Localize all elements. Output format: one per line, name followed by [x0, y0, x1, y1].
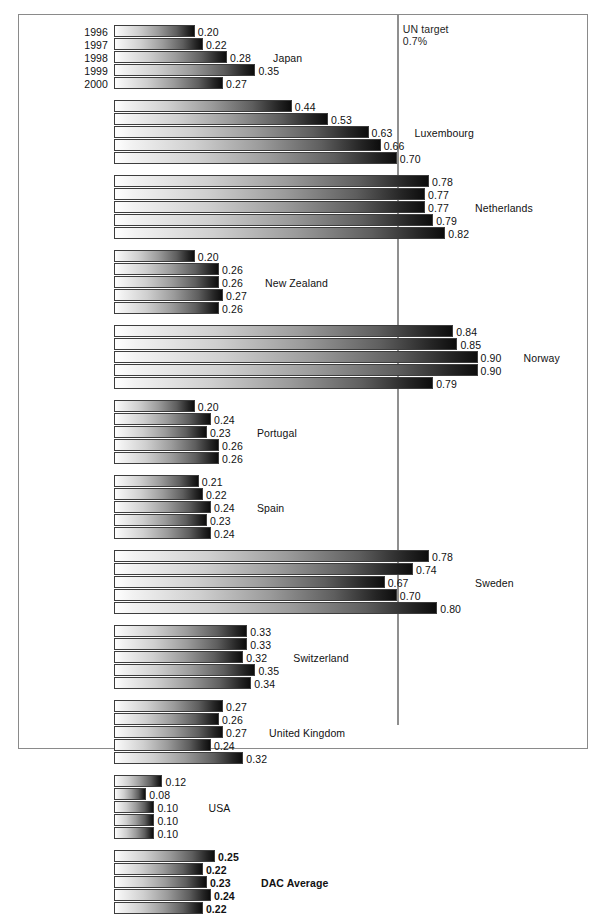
- bar-value-label: 0.79: [436, 215, 457, 227]
- bar-value-label: 0.66: [384, 140, 405, 152]
- bar: [114, 488, 203, 500]
- bar: [114, 38, 203, 50]
- bar-value-label: 0.78: [432, 551, 453, 563]
- bar-value-label: 0.28: [230, 52, 251, 64]
- bar-value-label: 0.24: [214, 740, 235, 752]
- bar-value-label: 0.27: [226, 78, 247, 90]
- bar-value-label: 0.70: [400, 153, 421, 165]
- bar: [114, 501, 211, 513]
- series-label-usa: USA: [208, 802, 230, 814]
- bar-value-label: 0.82: [448, 228, 469, 240]
- bar-value-label: 0.23: [210, 877, 231, 889]
- bar-value-label: 0.22: [206, 489, 227, 501]
- bar: [114, 100, 292, 112]
- bar: [114, 113, 328, 125]
- bar-value-label: 0.32: [246, 753, 267, 765]
- bar-value-label: 0.24: [214, 502, 235, 514]
- bar-value-label: 0.23: [210, 427, 231, 439]
- bar: [114, 651, 243, 663]
- bar-value-label: 0.26: [222, 440, 243, 452]
- bar: [114, 638, 247, 650]
- bar-value-label: 0.74: [416, 564, 437, 576]
- bar: [114, 550, 429, 562]
- bar-value-label: 0.26: [222, 264, 243, 276]
- bar: [114, 302, 219, 314]
- bar: [114, 814, 154, 826]
- bar-value-label: 0.27: [226, 727, 247, 739]
- bar: [114, 625, 247, 637]
- bar: [114, 713, 219, 725]
- bar-value-label: 0.79: [436, 378, 457, 390]
- bar-value-label: 0.26: [222, 303, 243, 315]
- bar-value-label: 0.26: [222, 453, 243, 465]
- bar: [114, 576, 385, 588]
- series-label-dac-average: DAC Average: [261, 877, 328, 889]
- bar-value-label: 0.20: [198, 251, 219, 263]
- bar: [114, 452, 219, 464]
- series-label-norway: Norway: [524, 352, 560, 364]
- bar: [114, 351, 478, 363]
- bar-value-label: 0.44: [295, 101, 316, 113]
- series-label-luxembourg: Luxembourg: [415, 127, 474, 139]
- bar: [114, 726, 223, 738]
- bar: [114, 902, 203, 914]
- bar-value-label: 0.78: [432, 176, 453, 188]
- bar: [114, 201, 425, 213]
- year-label-1996: 1996: [62, 26, 108, 38]
- bar-value-label: 0.63: [372, 127, 393, 139]
- year-label-2000: 2000: [62, 78, 108, 90]
- series-label-new-zealand: New Zealand: [265, 277, 328, 289]
- bar-value-label: 0.33: [250, 639, 271, 651]
- bar-value-label: 0.35: [258, 65, 279, 77]
- bar-value-label: 0.12: [165, 776, 186, 788]
- bar: [114, 475, 199, 487]
- bar-value-label: 0.08: [149, 789, 170, 801]
- bar: [114, 289, 223, 301]
- plot-area: UN target 0.7% 0.2019960.2219970.2819980…: [19, 15, 587, 748]
- bar-value-label: 0.26: [222, 714, 243, 726]
- bar-value-label: 0.10: [157, 828, 178, 840]
- bar: [114, 677, 251, 689]
- bar: [114, 788, 146, 800]
- bar: [114, 664, 255, 676]
- bar: [114, 152, 397, 164]
- bar: [114, 214, 433, 226]
- bar: [114, 863, 203, 875]
- bar-value-label: 0.22: [206, 903, 227, 915]
- bar-value-label: 0.35: [258, 665, 279, 677]
- bar-value-label: 0.23: [210, 515, 231, 527]
- bar: [114, 700, 223, 712]
- bar: [114, 775, 162, 787]
- bar-value-label: 0.22: [206, 39, 227, 51]
- bar: [114, 227, 445, 239]
- bar-value-label: 0.26: [222, 277, 243, 289]
- bar-value-label: 0.10: [157, 802, 178, 814]
- bar-value-label: 0.34: [254, 678, 275, 690]
- bar: [114, 188, 425, 200]
- year-label-1999: 1999: [62, 65, 108, 77]
- bar: [114, 739, 211, 751]
- bar: [114, 263, 219, 275]
- bar-value-label: 0.32: [246, 652, 267, 664]
- bar-value-label: 0.70: [400, 590, 421, 602]
- bar: [114, 126, 369, 138]
- bar: [114, 400, 195, 412]
- series-label-sweden: Sweden: [475, 577, 514, 589]
- bar: [114, 514, 207, 526]
- bar: [114, 527, 211, 539]
- series-label-netherlands: Netherlands: [475, 202, 533, 214]
- bar: [114, 64, 255, 76]
- bar: [114, 752, 243, 764]
- bar-value-label: 0.24: [214, 890, 235, 902]
- bar-value-label: 0.21: [202, 476, 223, 488]
- series-label-portugal: Portugal: [257, 427, 297, 439]
- bar-value-label: 0.24: [214, 414, 235, 426]
- bar: [114, 25, 195, 37]
- bar: [114, 876, 207, 888]
- bar: [114, 589, 397, 601]
- bar: [114, 139, 381, 151]
- bar: [114, 850, 215, 862]
- bar-value-label: 0.90: [481, 352, 502, 364]
- bar-value-label: 0.25: [218, 851, 239, 863]
- series-label-switzerland: Switzerland: [293, 652, 348, 664]
